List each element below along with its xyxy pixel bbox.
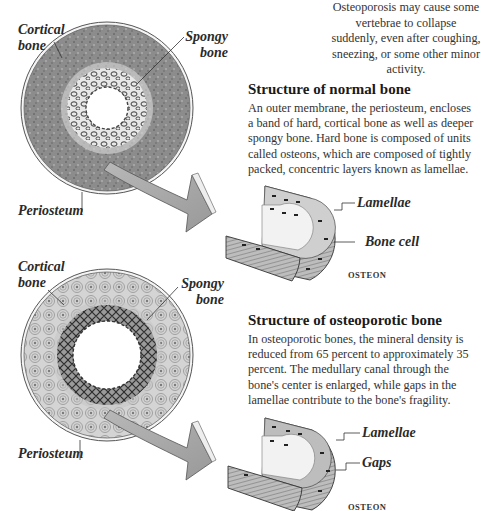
normal-osteon	[226, 186, 355, 281]
label-spongy-bone-osteoporotic: Spongy bone	[166, 276, 224, 308]
caption-osteon-normal: OSTEON	[348, 270, 386, 280]
paragraph-normal-bone: An outer membrane, the periosteum, enclo…	[248, 101, 478, 177]
intro-text: Osteoporosis may cause some vertebrae to…	[331, 0, 481, 78]
label-cortical-line1: Cortical	[18, 22, 65, 38]
label-cortical-bone-normal: Cortical bone	[18, 22, 65, 54]
label-gaps: Gaps	[362, 455, 392, 471]
caption-osteon-osteoporotic: OSTEON	[348, 502, 386, 511]
heading-osteoporotic-bone: Structure of osteoporotic bone	[248, 312, 442, 329]
label-cortical-line2: bone	[18, 275, 65, 291]
label-periosteum-osteoporotic: Periosteum	[18, 446, 83, 462]
heading-normal-bone: Structure of normal bone	[248, 81, 411, 98]
label-cortical-bone-osteoporotic: Cortical bone	[18, 259, 65, 291]
label-spongy-bone-normal: Spongy bone	[170, 29, 228, 61]
label-cortical-line1: Cortical	[18, 259, 65, 275]
label-bone-cell: Bone cell	[365, 234, 419, 250]
label-periosteum-normal: Periosteum	[18, 203, 83, 219]
label-spongy-line2: bone	[166, 292, 224, 308]
label-lamellae-osteoporotic: Lamellae	[362, 425, 416, 441]
label-spongy-line2: bone	[170, 45, 228, 61]
label-lamellae-normal: Lamellae	[357, 195, 411, 211]
paragraph-osteoporotic-bone: In osteoporotic bones, the mineral densi…	[248, 332, 470, 408]
label-spongy-line1: Spongy	[166, 276, 224, 292]
osteoporotic-osteon	[228, 418, 360, 511]
label-spongy-line1: Spongy	[170, 29, 228, 45]
label-cortical-line2: bone	[18, 38, 65, 54]
